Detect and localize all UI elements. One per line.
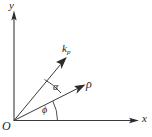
origin-label: O <box>2 120 11 132</box>
vector-kp-label-subscript: p <box>67 48 71 56</box>
x-axis-group <box>14 118 139 123</box>
angle-phi-arc <box>53 101 58 121</box>
vector-rho-label: ρ <box>86 78 92 90</box>
vector-diagram-figure: y x O kp ρ α ϕ <box>0 0 152 137</box>
vector-kp-label: kp <box>62 43 71 56</box>
angle-phi-label: ϕ <box>42 105 47 115</box>
x-axis-label: x <box>142 113 147 124</box>
vector-rho-group <box>14 84 86 120</box>
vector-kp-group <box>14 57 67 121</box>
diagram-canvas <box>0 0 152 137</box>
vector-kp-line <box>14 65 61 121</box>
y-axis-group <box>11 11 16 122</box>
vector-kp-arrowhead <box>56 57 67 69</box>
angle-alpha-label: α <box>53 82 58 92</box>
y-axis-label: y <box>9 0 14 11</box>
